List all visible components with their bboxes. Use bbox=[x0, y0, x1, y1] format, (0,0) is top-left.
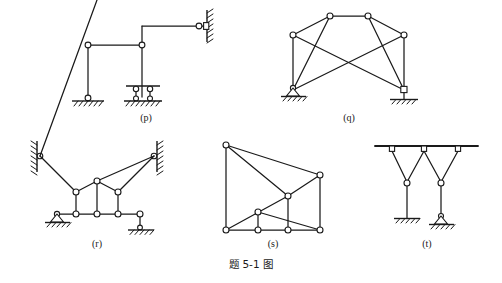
hinge-node bbox=[401, 32, 407, 38]
member-diagonal-right-to-mid bbox=[288, 175, 320, 196]
support-double-link-roller bbox=[124, 86, 162, 106]
hinge-node bbox=[327, 13, 333, 19]
panel-q-hinges bbox=[290, 13, 407, 38]
wall-hatching bbox=[31, 141, 37, 175]
member-upper-left-slope bbox=[293, 16, 330, 35]
member-upper-right-slope bbox=[368, 16, 404, 35]
hinge-node bbox=[285, 193, 291, 199]
panel-label-s: (s) bbox=[268, 238, 279, 250]
member-right-v-inner bbox=[424, 151, 441, 182]
hinge-node bbox=[290, 32, 296, 38]
member-right-v-outer bbox=[441, 151, 458, 182]
hinge-node bbox=[317, 172, 323, 178]
support-wall-right bbox=[204, 9, 213, 43]
hinge-node bbox=[438, 180, 444, 186]
panel-r: (r) bbox=[31, 0, 163, 250]
panel-q-members bbox=[293, 16, 404, 90]
hinge-node bbox=[115, 189, 121, 195]
hinge-node bbox=[73, 211, 79, 217]
panel-t: (t) bbox=[375, 146, 478, 250]
pin-triangle bbox=[435, 216, 448, 224]
ground-hatching bbox=[74, 101, 103, 106]
structural-diagram-sheet: (p) bbox=[0, 0, 502, 283]
hinge-node bbox=[317, 227, 323, 233]
hinge-node bbox=[223, 142, 229, 148]
hinge-node bbox=[94, 178, 100, 184]
member-stay-right-to-apex bbox=[97, 156, 154, 181]
panel-p: (p) bbox=[72, 9, 213, 124]
hinge-node bbox=[255, 209, 261, 215]
support-pin-left bbox=[72, 95, 104, 106]
hinge-node bbox=[73, 189, 79, 195]
member-diagonal-topright-to-right-base bbox=[368, 16, 404, 90]
support-hinge-right bbox=[390, 86, 418, 104]
hinge-node bbox=[404, 180, 410, 186]
member-stay-left-to-hanger-top bbox=[40, 156, 76, 192]
panel-label-r: (r) bbox=[92, 238, 102, 250]
support-wall-right bbox=[151, 141, 163, 175]
panel-p-members bbox=[88, 26, 206, 98]
hinge-node bbox=[115, 211, 121, 217]
support-roller-bottom-right bbox=[128, 217, 154, 235]
hinge-node bbox=[85, 95, 91, 101]
figure-root: (p) bbox=[0, 0, 502, 283]
member-apex-to-right-hanger bbox=[97, 181, 118, 192]
hinge-node bbox=[85, 42, 91, 48]
hinge-node bbox=[365, 13, 371, 19]
hinge-node bbox=[285, 227, 291, 233]
panel-label-p: (p) bbox=[140, 112, 152, 124]
support-wall-left bbox=[31, 141, 43, 175]
hinge-node bbox=[147, 86, 152, 91]
panel-p-hinges bbox=[85, 23, 202, 48]
wall-hinge-block bbox=[204, 23, 209, 30]
panel-label-q: (q) bbox=[343, 112, 355, 124]
ground-hatching bbox=[126, 101, 160, 106]
panel-q: (q) bbox=[281, 13, 418, 124]
panel-s: (s) bbox=[223, 142, 323, 250]
panel-s-members bbox=[226, 145, 320, 230]
wall-hatching bbox=[157, 141, 163, 175]
panel-label-t: (t) bbox=[422, 238, 431, 250]
hinge-node bbox=[137, 211, 143, 217]
member-stay-right-to-hanger-top bbox=[118, 156, 154, 192]
ceiling-hinge-block bbox=[389, 146, 394, 151]
member-diagonal-topleft-to-left-base bbox=[293, 16, 330, 90]
pin-triangle bbox=[51, 214, 64, 222]
member-left-v-outer bbox=[392, 151, 407, 182]
hinge-node bbox=[94, 211, 100, 217]
member-apex-to-left-hanger bbox=[76, 181, 97, 192]
hinge-node bbox=[138, 225, 143, 230]
panel-r-hinges bbox=[73, 178, 143, 217]
support-pin-right bbox=[429, 214, 455, 230]
member-left-v-inner bbox=[407, 151, 424, 182]
hinge-block bbox=[401, 86, 407, 92]
member-top-chord bbox=[226, 145, 320, 175]
hinge-node bbox=[148, 96, 153, 101]
support-pin-left bbox=[281, 85, 307, 101]
ceiling-hinge-block bbox=[421, 146, 426, 151]
support-fixed-left bbox=[394, 219, 420, 224]
hinge-node bbox=[139, 42, 145, 48]
ceiling-hinge-block bbox=[455, 146, 460, 151]
hinge-node bbox=[196, 23, 202, 29]
hinge-node bbox=[223, 227, 229, 233]
member-diagonal-topleft-to-mid bbox=[226, 145, 288, 196]
hinge-node bbox=[255, 227, 261, 233]
hinge-node bbox=[134, 96, 139, 101]
hinge-node bbox=[133, 86, 138, 91]
figure-caption: 题 5-1 图 bbox=[229, 258, 273, 270]
pin-triangle bbox=[287, 88, 300, 96]
panel-t-members bbox=[392, 151, 458, 218]
